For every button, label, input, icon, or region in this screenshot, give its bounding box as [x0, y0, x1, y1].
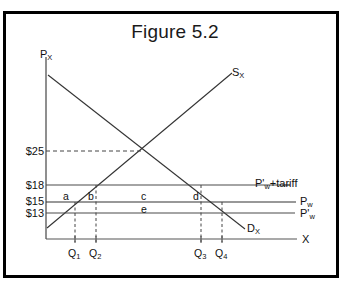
area-label-d: d — [193, 190, 199, 202]
area-label-b: b — [88, 190, 94, 202]
q2-sub: 2 — [97, 252, 101, 261]
q1-text: Q — [68, 247, 76, 259]
q4-sub: 4 — [223, 252, 227, 261]
q4-text: Q — [215, 247, 223, 259]
q3-text: Q — [194, 247, 202, 259]
area-label-a: a — [63, 190, 69, 202]
supply-curve-label: SX — [232, 66, 244, 78]
tariff-label-suffix: +tariff — [270, 177, 298, 189]
demand-label-sub: X — [255, 227, 260, 236]
world-price-prime-label: P'w — [300, 207, 315, 219]
quantity-tick-q2: Q2 — [89, 247, 101, 259]
demand-curve-label: DX — [247, 222, 260, 234]
q3-sub: 3 — [202, 252, 206, 261]
quantity-tick-q3: Q3 — [194, 247, 206, 259]
quantity-tick-q1: Q1 — [68, 247, 80, 259]
supply-label-sub: X — [239, 71, 244, 80]
demand-label-text: D — [247, 222, 255, 234]
quantity-tick-q4: Q4 — [215, 247, 227, 259]
y-axis-label: PX — [40, 48, 52, 60]
price-tick-18: $18 — [10, 179, 44, 191]
area-label-e: e — [141, 203, 147, 215]
price-tick-25: $25 — [10, 145, 44, 157]
area-label-c: c — [141, 190, 146, 202]
q1-sub: 1 — [76, 252, 80, 261]
world-price-label: Pw — [300, 195, 313, 207]
y-axis-label-sub: X — [47, 53, 52, 62]
q2-text: Q — [89, 247, 97, 259]
price-tick-15: $15 — [10, 195, 44, 207]
price-tick-13: $13 — [10, 207, 44, 219]
supply-demand-chart — [0, 0, 350, 295]
pw-prime-label-sub: w — [309, 212, 314, 221]
tariff-label-sub: w — [264, 182, 269, 191]
figure-page: Figure 5.2 PX X — [0, 0, 350, 295]
tariff-price-label: P'w+tariff — [255, 177, 297, 189]
x-axis-label: X — [302, 233, 309, 245]
